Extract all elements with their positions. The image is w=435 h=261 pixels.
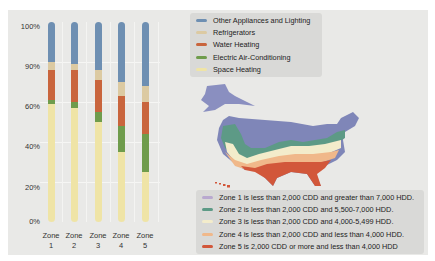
bar-segment bbox=[142, 86, 149, 102]
legend-swatch bbox=[202, 196, 213, 199]
bar-segment bbox=[48, 22, 55, 62]
y-tick-0: 0% bbox=[14, 217, 40, 226]
bar-segment bbox=[95, 22, 102, 70]
legend-swatch bbox=[196, 19, 207, 22]
zone-legend-item-2: Zone 2 is less than 2,000 CDD and 5,500-… bbox=[196, 203, 424, 215]
bar-segment bbox=[95, 70, 102, 80]
legend-swatch bbox=[196, 68, 207, 71]
bar-segment bbox=[71, 22, 78, 64]
zone-legend-item-5: Zone 5 is 2,000 CDD or more and less tha… bbox=[196, 241, 424, 253]
legend-item-water-heating: Water Heating bbox=[190, 39, 322, 51]
x-label-zone-5: Zone5 bbox=[133, 231, 157, 251]
bar-segment bbox=[48, 104, 55, 222]
y-tick-60: 60% bbox=[14, 102, 40, 111]
legend-item-electric-ac: Electric Air-Conditioning bbox=[190, 51, 322, 63]
y-tick-20: 20% bbox=[14, 183, 40, 192]
bar-segment bbox=[95, 112, 102, 122]
y-tick-40: 40% bbox=[14, 142, 40, 151]
legend-swatch bbox=[202, 233, 213, 236]
legend-swatch bbox=[196, 43, 207, 46]
bar-segment bbox=[48, 70, 55, 100]
x-label-zone-1: Zone1 bbox=[39, 231, 63, 251]
zone-legend-item-1: Zone 1 is less than 2,000 CDD and greate… bbox=[196, 191, 424, 203]
bar-segment bbox=[142, 22, 149, 86]
y-tick-90: 90% bbox=[14, 62, 40, 71]
bar-segment bbox=[142, 172, 149, 222]
bar-segment bbox=[95, 122, 102, 222]
end-use-legend: Other Appliances and Lighting Refrigerat… bbox=[190, 13, 322, 77]
us-climate-zone-map bbox=[195, 82, 375, 192]
bar-zone-3 bbox=[95, 22, 102, 222]
legend-swatch bbox=[202, 245, 213, 248]
legend-item-refrigerators: Refrigerators bbox=[190, 26, 322, 38]
alaska-shape bbox=[201, 84, 255, 112]
zone-legend-item-3: Zone 3 is less than 2,000 CDD and 4,000-… bbox=[196, 216, 424, 228]
bar-zone-4 bbox=[118, 22, 125, 222]
x-label-zone-3: Zone3 bbox=[86, 231, 110, 251]
bar-zone-5 bbox=[142, 22, 149, 222]
bar-segment bbox=[118, 152, 125, 222]
bar-zone-2 bbox=[71, 22, 78, 222]
y-tick-100: 100% bbox=[14, 22, 40, 31]
legend-swatch bbox=[202, 220, 213, 223]
bar-segment bbox=[95, 80, 102, 112]
legend-swatch bbox=[196, 56, 207, 59]
bar-segment bbox=[48, 62, 55, 70]
bar-segment bbox=[118, 96, 125, 126]
legend-item-space-heating: Space Heating bbox=[190, 64, 322, 76]
bar-segment bbox=[142, 134, 149, 172]
bar-segment bbox=[71, 108, 78, 222]
x-label-zone-2: Zone2 bbox=[62, 231, 86, 251]
x-label-zone-4: Zone4 bbox=[109, 231, 133, 251]
bar-zone-1 bbox=[48, 22, 55, 222]
bar-segment bbox=[118, 22, 125, 82]
bar-segment bbox=[118, 126, 125, 152]
legend-swatch bbox=[196, 31, 207, 34]
bar-segment bbox=[118, 82, 125, 96]
zone-legend: Zone 1 is less than 2,000 CDD and greate… bbox=[196, 190, 424, 254]
bar-segment bbox=[142, 102, 149, 134]
zone-legend-item-4: Zone 4 is less than 2,000 CDD and less t… bbox=[196, 228, 424, 240]
legend-swatch bbox=[202, 208, 213, 211]
legend-item-other-appliances: Other Appliances and Lighting bbox=[190, 14, 322, 26]
hawaii-shape bbox=[215, 182, 230, 188]
bar-segment bbox=[71, 70, 78, 102]
